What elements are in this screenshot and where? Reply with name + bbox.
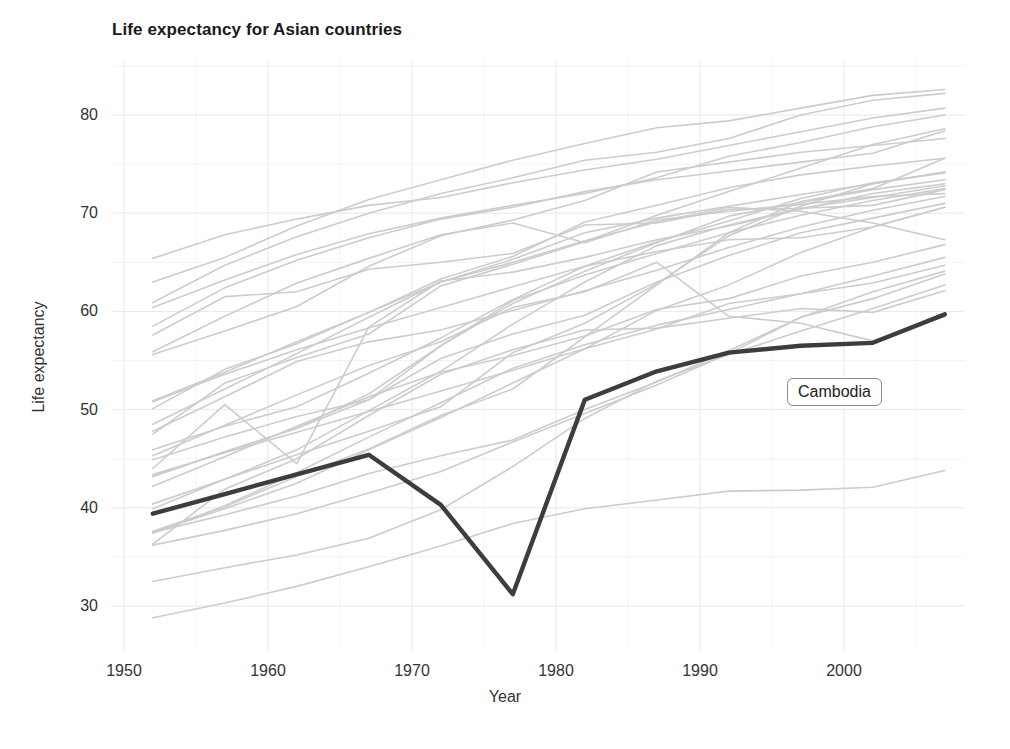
plot-area (0, 0, 1010, 749)
series-line (153, 108, 945, 258)
series-line (153, 184, 945, 469)
series-line (153, 189, 945, 477)
series-line (153, 203, 945, 459)
series-line (153, 115, 945, 307)
chart-container: Life expectancy for Asian countries Life… (0, 0, 1010, 749)
series-line (153, 158, 945, 401)
cambodia-annotation-label: Cambodia (787, 378, 882, 406)
background-series-lines (153, 89, 945, 617)
series-line (153, 194, 945, 352)
